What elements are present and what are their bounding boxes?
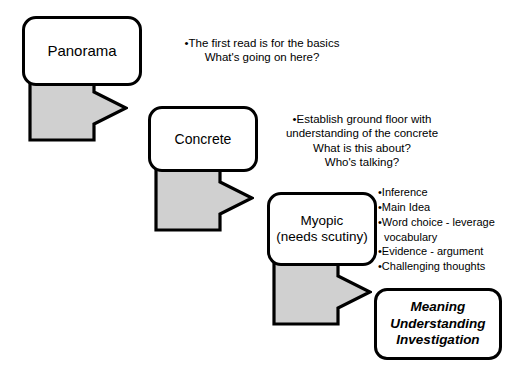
- node-outcome-label: Meaning Understanding Investigation: [390, 299, 485, 349]
- annotation-concrete-line-2: understanding of the concrete: [274, 126, 450, 140]
- annotation-myopic-line-6: •Challenging thoughts: [378, 260, 510, 274]
- annotation-panorama-line-1: •The first read is for the basics: [164, 36, 360, 50]
- arrow-myopic-to-outcome: [272, 258, 372, 326]
- annotation-myopic-line-5: •Evidence - argument: [378, 245, 510, 259]
- node-concrete-label: Concrete: [175, 131, 232, 148]
- annotation-myopic: •Inference •Main Idea •Word choice - lev…: [378, 186, 510, 275]
- node-myopic[interactable]: Myopic (needs scutiny): [267, 192, 377, 266]
- node-myopic-label: Myopic (needs scutiny): [276, 213, 368, 245]
- annotation-concrete-line-3: What is this about?: [274, 141, 450, 155]
- node-outcome[interactable]: Meaning Understanding Investigation: [374, 288, 502, 360]
- annotation-concrete-line-4: Who's talking?: [274, 155, 450, 169]
- annotation-concrete: •Establish ground floor with understandi…: [274, 112, 450, 170]
- annotation-panorama-line-2: What's going on here?: [164, 50, 360, 64]
- annotation-panorama: •The first read is for the basics What's…: [164, 36, 360, 65]
- arrow-concrete-to-myopic: [154, 164, 254, 232]
- annotation-myopic-line-1: •Inference: [378, 186, 510, 200]
- annotation-myopic-line-3: •Word choice - leverage: [378, 216, 510, 230]
- node-panorama-label: Panorama: [47, 42, 116, 60]
- annotation-myopic-line-2: •Main Idea: [378, 201, 510, 215]
- annotation-myopic-line-4: vocabulary: [378, 231, 510, 245]
- diagram-canvas: Panorama Concrete Myopic (needs scutiny)…: [0, 0, 513, 371]
- node-concrete[interactable]: Concrete: [148, 106, 258, 172]
- annotation-concrete-line-1: •Establish ground floor with: [274, 112, 450, 126]
- node-panorama[interactable]: Panorama: [22, 16, 142, 86]
